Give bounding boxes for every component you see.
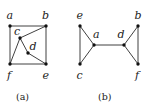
node-f [136,62,139,65]
edge-e-a [80,26,94,45]
edge-a-c [80,45,94,64]
node-a [8,24,11,27]
edge-d-b [124,26,138,45]
label-e: e [77,9,84,22]
edge-c-d [20,38,28,53]
node-a [92,43,95,46]
node-c [78,62,81,65]
label-d: d [118,28,125,41]
caption-b: (b) [98,91,112,102]
label-f: f [6,69,13,82]
label-e: e [43,69,50,82]
node-f [8,62,11,65]
label-f: f [134,69,141,82]
panel-b: e a c d b f (b) [77,9,142,102]
label-a: a [7,9,14,22]
panel-a: a b c d e f (a) [6,9,50,102]
node-d [122,43,125,46]
caption-a: (a) [16,91,29,102]
node-e [44,62,47,65]
edge-d-f [124,45,138,64]
label-b: b [135,9,142,22]
node-e [78,24,81,27]
label-c: c [14,25,20,38]
label-c: c [77,69,83,82]
label-d: d [30,40,37,53]
graph-figure: a b c d e f (a) e a c d b f (b) [0,0,144,103]
node-b [136,24,139,27]
label-a: a [93,28,100,41]
edge-d-e [28,53,46,64]
edge-c-f [10,38,20,64]
node-b [44,24,47,27]
label-b: b [42,9,49,22]
edge-c-b [20,26,46,38]
